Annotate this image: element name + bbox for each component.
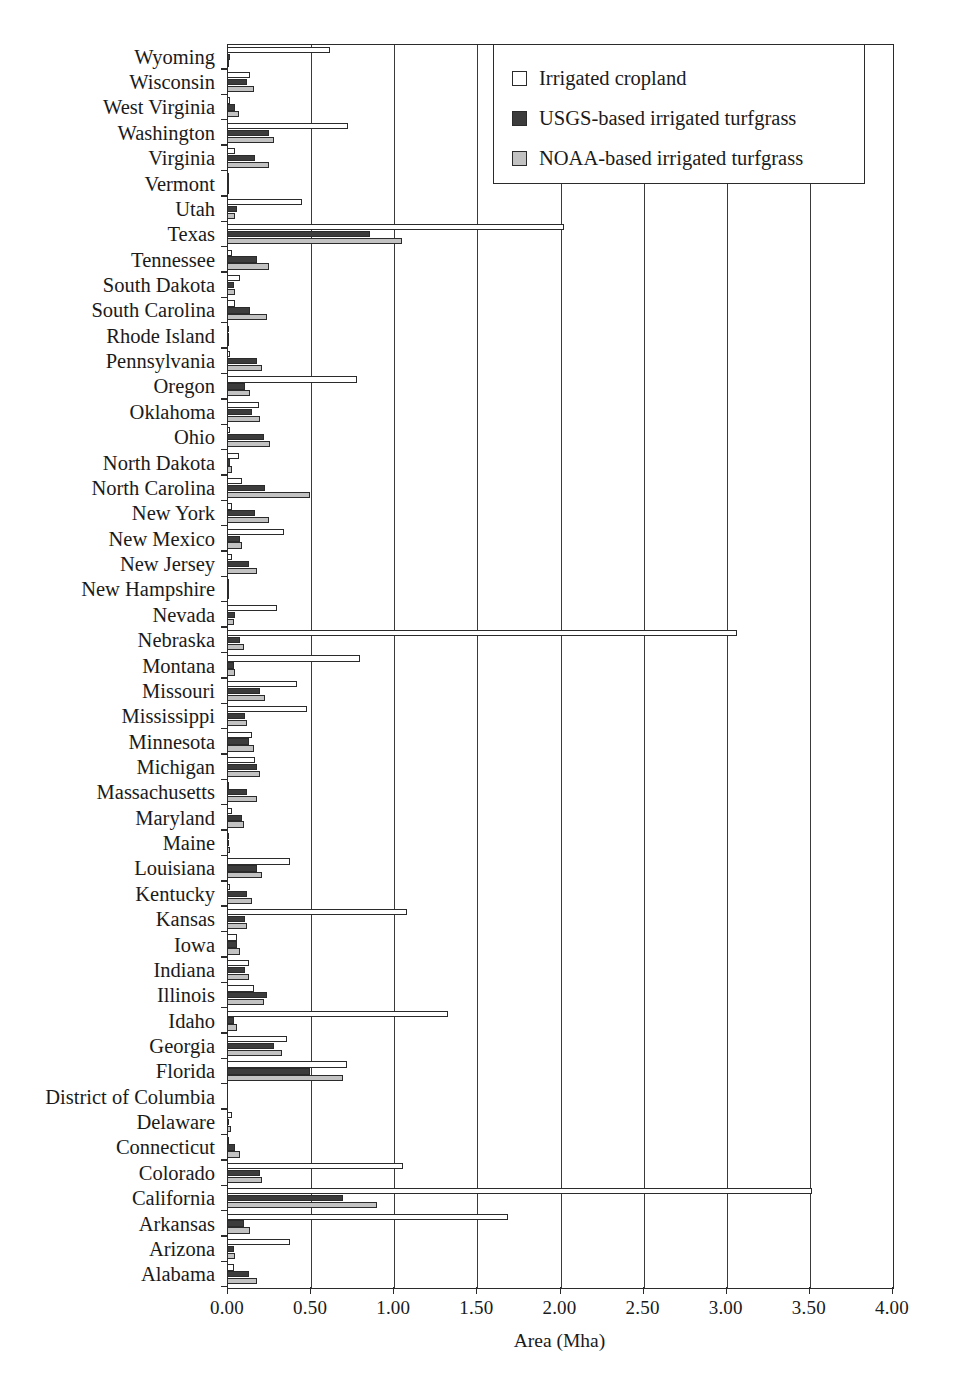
x-axis-tick — [809, 1287, 810, 1294]
bar-noaa-turfgrass — [227, 1050, 282, 1056]
bar-noaa-turfgrass — [227, 365, 262, 371]
bar-usgs-turfgrass — [227, 536, 240, 542]
y-axis-category-label: Kentucky — [135, 884, 215, 905]
x-axis-tick-label: 3.50 — [769, 1297, 849, 1319]
chart-row — [227, 805, 892, 830]
bar-usgs-turfgrass — [227, 1043, 274, 1049]
bar-noaa-turfgrass — [227, 187, 229, 193]
bar-cropland — [227, 909, 407, 915]
bar-usgs-turfgrass — [227, 459, 230, 465]
bar-usgs-turfgrass — [227, 865, 257, 871]
bar-cropland — [227, 934, 237, 940]
bar-cropland — [227, 250, 232, 256]
y-axis-category-label: Massachusetts — [97, 782, 215, 803]
bar-usgs-turfgrass — [227, 333, 229, 339]
bar-usgs-turfgrass — [227, 409, 252, 415]
y-axis-category-label: Nevada — [152, 605, 215, 626]
bar-cropland — [227, 1214, 508, 1220]
bar-usgs-turfgrass — [227, 130, 269, 136]
x-axis-tick-label: 0.50 — [270, 1297, 350, 1319]
chart-row — [227, 856, 892, 881]
bar-cropland — [227, 655, 360, 661]
y-axis-category-label: North Dakota — [103, 452, 215, 473]
bar-noaa-turfgrass — [227, 314, 267, 320]
chart-row — [227, 1109, 892, 1134]
bar-noaa-turfgrass — [227, 974, 249, 980]
y-axis-category-label: Oklahoma — [130, 402, 215, 423]
y-axis-category-label: New Hampshire — [81, 579, 215, 600]
x-axis-tick — [393, 1287, 394, 1294]
y-axis-category-label: Pennsylvania — [106, 351, 215, 372]
chart-row — [227, 1008, 892, 1033]
y-axis-category-label: Indiana — [154, 960, 215, 981]
bar-usgs-turfgrass — [227, 1119, 229, 1125]
chart-row — [227, 729, 892, 754]
bar-usgs-turfgrass — [227, 1017, 234, 1023]
bar-usgs-turfgrass — [227, 1220, 244, 1226]
bar-cropland — [227, 1188, 812, 1194]
chart-row — [227, 602, 892, 627]
bar-noaa-turfgrass — [227, 86, 254, 92]
plot-overlay: 0.000.501.001.502.002.503.003.504.00 — [227, 44, 892, 1287]
bar-cropland — [227, 173, 229, 179]
bar-noaa-turfgrass — [227, 593, 229, 599]
legend-item-usgs: USGS-based irrigated turfgrass — [512, 98, 864, 138]
bar-cropland — [227, 884, 230, 890]
bar-usgs-turfgrass — [227, 54, 230, 60]
bar-usgs-turfgrass — [227, 231, 370, 237]
chart-row — [227, 196, 892, 221]
bar-cropland — [227, 1239, 290, 1245]
bar-cropland — [227, 579, 229, 585]
y-axis-category-label: Arkansas — [139, 1213, 215, 1234]
y-axis-category-label: Wisconsin — [129, 72, 215, 93]
bar-cropland — [227, 605, 277, 611]
bar-cropland — [227, 478, 242, 484]
chart-row — [227, 399, 892, 424]
x-axis-tick — [227, 1287, 228, 1294]
bar-cropland — [227, 1137, 229, 1143]
y-axis-category-label: Louisiana — [134, 858, 215, 879]
bar-cropland — [227, 123, 348, 129]
legend-label-cropland: Irrigated cropland — [539, 68, 686, 89]
bar-usgs-turfgrass — [227, 561, 249, 567]
bar-cropland — [227, 47, 330, 53]
bar-cropland — [227, 529, 284, 535]
y-axis-category-label: Delaware — [136, 1112, 215, 1133]
bar-cropland — [227, 351, 230, 357]
chart-row — [227, 526, 892, 551]
bar-noaa-turfgrass — [227, 111, 239, 117]
x-axis-tick-label: 2.00 — [520, 1297, 600, 1319]
bar-usgs-turfgrass — [227, 992, 267, 998]
chart-row — [227, 906, 892, 931]
bar-usgs-turfgrass — [227, 764, 257, 770]
x-axis-tick-label: 0.00 — [187, 1297, 267, 1319]
bar-cropland — [227, 1011, 448, 1017]
chart-row — [227, 272, 892, 297]
chart-row — [227, 374, 892, 399]
x-axis-tick — [892, 1287, 893, 1294]
chart-row — [227, 983, 892, 1008]
bar-noaa-turfgrass — [227, 339, 229, 345]
chart-row — [227, 678, 892, 703]
y-axis-category-label: Maryland — [135, 807, 215, 828]
bar-cropland — [227, 732, 252, 738]
bar-cropland — [227, 1264, 234, 1270]
y-axis-category-label: New York — [132, 503, 215, 524]
bar-noaa-turfgrass — [227, 1126, 231, 1132]
bar-noaa-turfgrass — [227, 1227, 250, 1233]
y-axis-category-label: Nebraska — [138, 630, 215, 651]
chart-row — [227, 780, 892, 805]
bar-cropland — [227, 554, 232, 560]
legend-swatch-noaa — [512, 151, 527, 166]
bar-cropland — [227, 72, 250, 78]
y-axis-category-label: Rhode Island — [106, 325, 215, 346]
bar-usgs-turfgrass — [227, 206, 237, 212]
bar-usgs-turfgrass — [227, 1271, 249, 1277]
bar-cropland — [227, 985, 254, 991]
chart-row — [227, 247, 892, 272]
chart-row — [227, 704, 892, 729]
y-axis-category-label: New Mexico — [109, 528, 215, 549]
bar-usgs-turfgrass — [227, 713, 245, 719]
bar-usgs-turfgrass — [227, 155, 255, 161]
chart-row — [227, 348, 892, 373]
